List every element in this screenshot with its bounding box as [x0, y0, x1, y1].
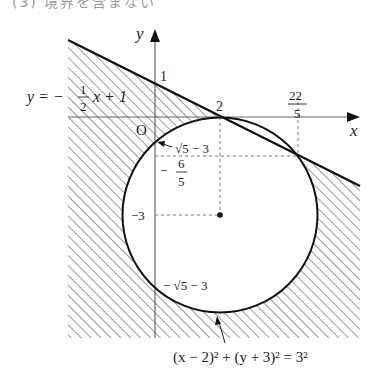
svg-text:−: −	[160, 163, 167, 178]
circle-top-y-label: √5 − 3	[175, 141, 209, 156]
center-point	[217, 212, 223, 218]
svg-text:5: 5	[178, 174, 185, 189]
svg-text:6: 6	[178, 156, 185, 171]
svg-text:5: 5	[294, 106, 301, 121]
svg-text:1: 1	[80, 82, 87, 97]
y-intercept-label: 1	[160, 69, 167, 84]
svg-text:22: 22	[289, 88, 302, 103]
svg-text:y = −: y = −	[25, 88, 64, 106]
center-y-label: −3	[131, 208, 145, 223]
svg-text:x + 1: x + 1	[92, 88, 127, 105]
svg-text:2: 2	[80, 99, 87, 114]
graph-figure: y x O 1 2 22 5 y = − 1 2 x + 1 √5 − 3 − …	[0, 0, 380, 383]
shaded-region	[68, 40, 360, 338]
circle-equation-label: (x − 2)² + (y + 3)² = 3²	[173, 349, 308, 366]
y-axis-label: y	[134, 24, 144, 43]
origin-label: O	[136, 122, 147, 138]
tangent-x-label: 2	[216, 99, 223, 114]
circle-bottom-y-label: − √5 − 3	[163, 278, 208, 293]
x-axis-label: x	[349, 121, 358, 140]
